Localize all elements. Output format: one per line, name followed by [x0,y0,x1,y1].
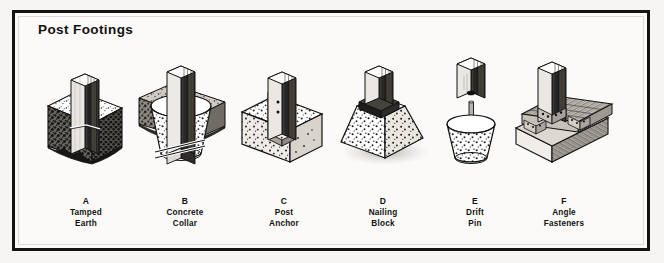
figure-a-caption-line2: Earth [30,219,142,230]
figure-f-caption-line2: Fasteners [508,219,620,230]
figure-c-caption-line2: Anchor [228,219,340,230]
figure-a-caption-line1: Tamped [70,208,102,217]
figure-angle-fasteners: F Angle Fasteners [508,36,620,204]
figure-c-caption: Post Anchor [228,208,340,229]
figure-f-letter: F [508,196,620,206]
figure-b-drawing [129,36,241,166]
figure-c-caption-line1: Post [275,208,294,217]
figure-post-anchor: C Post Anchor [228,36,340,204]
figure-concrete-collar: B Concrete Collar [129,36,241,204]
figure-a-caption: Tamped Earth [30,208,142,229]
figure-c-drawing [228,36,340,166]
figure-d-caption-line1: Nailing [369,208,398,217]
page-title: Post Footings [38,22,133,37]
figure-c-letter: C [228,196,340,206]
figure-tamped-earth: A Tamped Earth [30,36,142,204]
figure-a-letter: A [30,196,142,206]
figure-f-caption: Angle Fasteners [508,208,620,229]
figure-a-drawing [30,36,142,166]
figure-b-caption-line2: Collar [129,219,241,230]
figure-e-caption-line1: Drift [466,208,484,217]
figure-f-drawing [508,36,620,166]
illustration-plate: Post Footings [0,0,664,263]
figure-b-letter: B [129,196,241,206]
figure-b-caption-line1: Concrete [166,208,203,217]
figure-f-caption-line1: Angle [552,208,576,217]
figure-b-caption: Concrete Collar [129,208,241,229]
